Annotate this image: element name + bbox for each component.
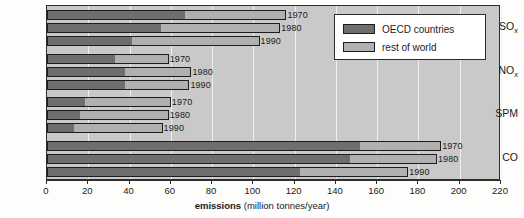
bar-year-label: 1990 [190,80,210,90]
bar-sox-1990: 1990 [47,36,260,46]
bar-segment-rest-of-world [132,37,259,45]
bar-year-label: 1980 [170,110,190,120]
x-axis-tick-label: 100 [244,185,260,196]
x-axis-line [46,180,500,181]
x-axis-tick-label: 160 [368,185,384,196]
bar-year-label: 1990 [261,36,281,46]
bar-segment-oecd [48,168,300,176]
bar-segment-oecd [48,68,125,76]
x-axis-tick-label: 120 [286,185,302,196]
bar-spm-1970: 1970 [47,97,171,107]
x-axis-tick [459,180,460,184]
x-axis-tick-label: 200 [451,185,467,196]
bar-segment-oecd [48,55,115,63]
bar-segment-oecd [48,37,132,45]
x-axis-tick [500,180,501,184]
bar-spm-1980: 1980 [47,110,169,120]
bar-co-1970: 1970 [47,141,441,151]
x-axis-tick-label: 80 [206,185,217,196]
legend-label-rest-of-world: rest of world [382,42,436,53]
bar-year-label: 1970 [442,141,462,151]
bar-segment-rest-of-world [360,142,440,150]
category-label-co: CO [502,151,518,163]
bar-year-label: 1980 [192,67,212,77]
bar-segment-oecd [48,98,85,106]
bar-co-1980: 1980 [47,154,437,164]
x-axis-tick [252,180,253,184]
x-axis-tick-label: 220 [492,185,508,196]
bar-segment-rest-of-world [115,55,168,63]
legend: OECD countries rest of world [334,14,486,60]
bar-segment-rest-of-world [125,68,190,76]
x-axis-tick-label: 0 [43,185,48,196]
bar-segment-rest-of-world [185,11,285,19]
bar-segment-rest-of-world [74,124,161,132]
legend-swatch-oecd [343,24,375,34]
bar-co-1990: 1990 [47,167,408,177]
bar-year-label: 1970 [287,10,307,20]
bar-year-label: 1980 [281,23,301,33]
bar-segment-rest-of-world [350,155,436,163]
x-axis-title-strong: emissions [195,200,241,211]
x-axis-tick [170,180,171,184]
x-axis-tick-label: 180 [410,185,426,196]
bar-segment-rest-of-world [85,98,170,106]
x-axis-tick [294,180,295,184]
bar-year-label: 1990 [164,123,184,133]
bar-sox-1980: 1980 [47,23,280,33]
bar-year-label: 1990 [409,167,429,177]
x-axis-tick [417,180,418,184]
x-axis-tick-label: 40 [123,185,134,196]
emissions-bar-chart: 1970198019901970198019901970198019901970… [0,0,524,218]
bar-segment-rest-of-world [125,81,188,89]
x-axis-tick [129,180,130,184]
legend-label-oecd: OECD countries [382,24,454,35]
bar-segment-rest-of-world [300,168,407,176]
bar-segment-oecd [48,11,185,19]
category-label-sox: SOx [499,20,518,35]
x-axis-tick [376,180,377,184]
x-axis-tick [46,180,47,184]
bar-segment-oecd [48,142,360,150]
category-label-nox: NOx [499,64,519,79]
legend-item-rest-of-world: rest of world [343,39,477,55]
x-axis-tick [211,180,212,184]
bar-segment-oecd [48,111,80,119]
bar-segment-rest-of-world [80,111,167,119]
bar-segment-oecd [48,24,161,32]
legend-swatch-rest-of-world [343,42,375,52]
x-axis-tick [87,180,88,184]
x-axis-tick-label: 140 [327,185,343,196]
x-axis-tick [335,180,336,184]
bar-nox-1970: 1970 [47,54,169,64]
x-axis-title: emissions (million tonnes/year) [0,200,524,211]
x-axis-title-unit: (million tonnes/year) [244,200,330,211]
bar-year-label: 1980 [438,154,458,164]
bar-spm-1990: 1990 [47,123,163,133]
bar-year-label: 1970 [170,54,190,64]
x-axis-tick-label: 20 [82,185,93,196]
bar-nox-1980: 1980 [47,67,191,77]
bar-sox-1970: 1970 [47,10,286,20]
bar-segment-oecd [48,81,125,89]
bar-segment-oecd [48,124,74,132]
category-label-spm: SPM [495,107,518,119]
x-axis-tick-label: 60 [165,185,176,196]
legend-item-oecd: OECD countries [343,21,477,37]
bar-nox-1990: 1990 [47,80,189,90]
bar-segment-oecd [48,155,350,163]
bar-segment-rest-of-world [161,24,280,32]
bar-year-label: 1970 [172,97,192,107]
